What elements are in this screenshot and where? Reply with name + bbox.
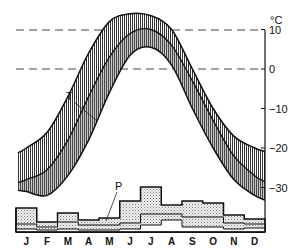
y-axis: °C 100−10−20−30 <box>261 14 288 232</box>
temperature-label: T <box>66 90 73 102</box>
month-label: A <box>168 236 175 247</box>
month-label: D <box>251 236 258 247</box>
x-axis: JFMAMJJASOND <box>16 232 265 247</box>
month-label: A <box>85 236 92 247</box>
y-tick-label: 10 <box>269 24 281 36</box>
temperature-lower-shade <box>18 29 265 201</box>
month-label: F <box>44 236 50 247</box>
y-tick-label: −20 <box>269 142 288 154</box>
precipitation-bars <box>16 187 265 232</box>
month-label: M <box>105 236 113 247</box>
y-tick-label: −10 <box>269 103 288 115</box>
y-tick-label: 0 <box>269 63 275 75</box>
month-label: J <box>148 236 154 247</box>
month-label: J <box>127 236 133 247</box>
month-label: S <box>189 236 196 247</box>
month-label: J <box>24 236 30 247</box>
y-tick-label: −30 <box>269 182 288 194</box>
month-label: O <box>209 236 217 247</box>
month-label: N <box>230 236 237 247</box>
climate-chart: °C 100−10−20−30 JFMAMJJASOND T P <box>0 0 297 251</box>
month-label: M <box>64 236 72 247</box>
precipitation-label: P <box>115 180 122 192</box>
precipitation-leader-line <box>106 192 117 221</box>
temperature-band <box>18 13 265 200</box>
